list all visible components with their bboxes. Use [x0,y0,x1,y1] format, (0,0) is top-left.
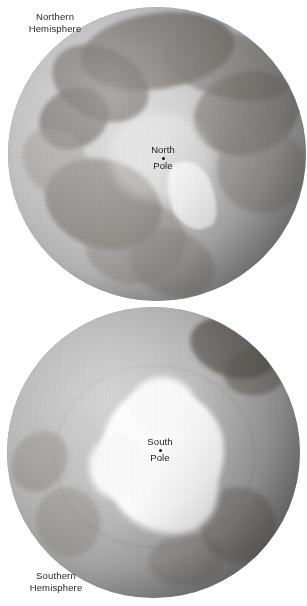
south-pole-word: Pole [150,452,169,463]
label-south-pole: South Pole [134,437,186,463]
north-pole-word: Pole [153,160,172,171]
two-hemisphere-globe-figure: Northern Hemisphere North Pole South Pol… [0,0,307,606]
label-north-pole: North Pole [137,145,189,171]
north-pole-name: North [151,144,175,155]
label-southern-hemisphere: Southern Hemisphere [17,570,95,593]
label-northern-hemisphere: Northern Hemisphere [18,11,92,34]
south-pole-name: South [147,436,172,447]
